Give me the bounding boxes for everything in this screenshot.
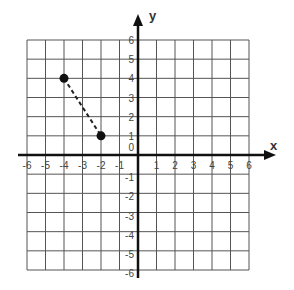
x-tick-label: 2 [172, 160, 178, 171]
x-tick-label: -1 [115, 160, 124, 171]
y-tick-label: 0 [128, 142, 134, 153]
y-tick-label: 5 [128, 54, 134, 65]
data-point [97, 131, 106, 140]
x-tick-label: 6 [246, 160, 252, 171]
x-tick-label: -3 [78, 160, 87, 171]
y-tick-label: -3 [125, 211, 134, 222]
x-tick-label: 3 [191, 160, 197, 171]
axes: x y [18, 8, 278, 278]
y-tick-labels: 6543210-1-2-3-4-5-6 [125, 35, 134, 279]
coordinate-plane: x y -6-5-4-3-2-1123456 6543210-1-2-3-4-5… [0, 0, 294, 290]
y-axis-arrow-icon [133, 14, 143, 26]
y-tick-label: 6 [128, 35, 134, 46]
y-axis-label: y [149, 8, 157, 23]
y-tick-label: 3 [128, 93, 134, 104]
y-tick-label: -4 [125, 230, 134, 241]
x-tick-label: 1 [154, 160, 160, 171]
x-tick-label: -6 [23, 160, 32, 171]
y-tick-label: 2 [128, 112, 134, 123]
x-tick-label: -5 [41, 160, 50, 171]
y-tick-label: 1 [128, 131, 134, 142]
x-axis-label: x [270, 138, 278, 153]
y-tick-label: -2 [125, 191, 134, 202]
y-tick-label: -5 [125, 249, 134, 260]
y-tick-label: -6 [125, 268, 134, 279]
data-point [60, 74, 69, 83]
x-tick-label: -2 [97, 160, 106, 171]
x-tick-label: -4 [60, 160, 69, 171]
x-tick-label: 4 [209, 160, 215, 171]
x-tick-label: 5 [228, 160, 234, 171]
y-tick-label: -1 [125, 172, 134, 183]
y-tick-label: 4 [128, 73, 134, 84]
